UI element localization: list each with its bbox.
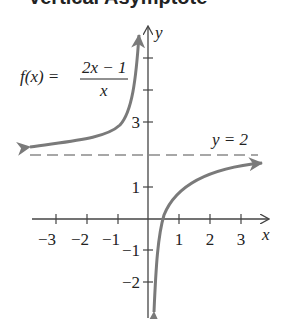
x-axis-label: x (261, 225, 270, 244)
asymptote-label: y = 2 (210, 130, 249, 149)
x-tick-label: 1 (175, 230, 184, 249)
x-tick-label: −3 (38, 230, 56, 249)
svg-text:2x − 1: 2x − 1 (82, 58, 127, 77)
function-label: f(x) = 2x − 1 x (20, 58, 128, 100)
svg-text:f(x) =: f(x) = (20, 67, 59, 86)
x-tick-label: 2 (206, 230, 215, 249)
x-tick-label: −1 (102, 230, 120, 249)
y-tick-label: −1 (122, 241, 140, 260)
y-tick-label: 1 (132, 178, 141, 197)
y-axis-label: y (153, 23, 163, 42)
x-tick-label: −2 (71, 230, 89, 249)
y-tick-label: 3 (132, 113, 141, 132)
function-graph: −3 −2 −1 1 2 3 −2 −1 1 3 x y y = 2 f(x) … (0, 0, 290, 319)
svg-text:x: x (99, 81, 108, 100)
x-tick-label: 3 (237, 230, 246, 249)
y-tick-label: −2 (122, 273, 140, 292)
curve-left-branch (30, 35, 139, 147)
